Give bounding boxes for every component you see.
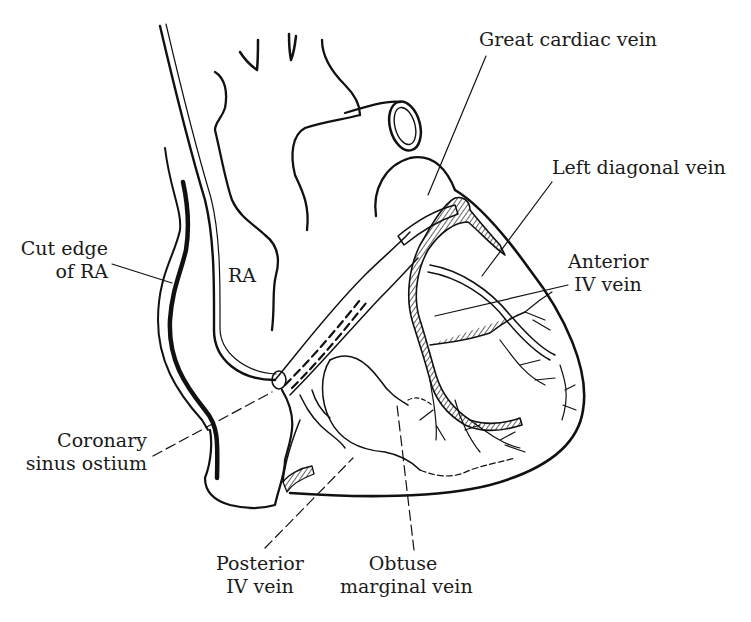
label-ra: RA [228,264,256,287]
aorta-outline [292,115,360,230]
coronary-sinus-tube [272,232,418,395]
leader-coronary-sinus-ostium [153,392,272,456]
label-obtuse-marginal-vein: Obtuse marginal vein [340,552,466,598]
apex-dotted [420,458,515,476]
label-left-diagonal-vein: Left diagonal vein [552,156,726,179]
vessel-mark-3 [322,40,360,115]
leader-obtuse-marginal-vein [397,405,414,550]
posterior-iv-vein-path [300,395,345,448]
label-anterior-iv-vein: Anterior IV vein [568,250,648,296]
obtuse-dotted [408,398,432,405]
left-atrium-arc [375,157,455,216]
obtuse-marginal-vein-path [330,356,408,405]
label-coronary-sinus-ostium: Coronary sinus ostium [18,429,147,475]
label-great-cardiac-vein: Great cardiac vein [479,28,657,51]
ra-interior-contour [215,72,278,330]
vessel-mark-1 [240,40,258,70]
label-cut-edge-of-ra: Cut edge of RA [14,237,108,283]
left-diagonal-vein-path-2 [428,272,550,360]
obtuse-marginal-loop [323,360,421,470]
posterior-hatched-stub [283,466,314,492]
leader-anterior-iv-vein [435,285,568,316]
heart-vein-diagram: Great cardiac vein Left diagonal vein An… [0,0,751,622]
leader-cut-edge-of-ra [112,264,172,283]
anterior-branch [430,312,525,345]
leader-great-cardiac-vein [428,56,486,195]
label-posterior-iv-vein: Posterior IV vein [210,552,310,598]
catheter-line [160,24,276,380]
leader-left-diagonal-vein [482,182,552,276]
anterior-iv-vein-hatched [409,198,522,431]
vessel-ring-outer [384,98,426,154]
vessel-mark-2 [289,34,296,60]
heart-illustration [0,0,751,622]
